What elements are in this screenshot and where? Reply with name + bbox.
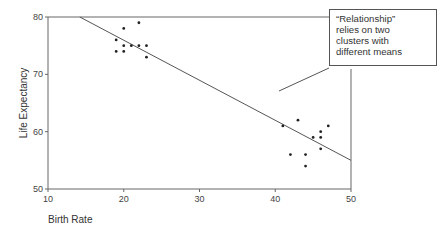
- callout-line-4: different means: [336, 46, 436, 57]
- annotation-callout: “Relationship” relies on two clusters wi…: [329, 9, 437, 66]
- data-point: [281, 125, 284, 128]
- y-tick-label: 50: [33, 184, 43, 194]
- data-point: [304, 153, 307, 156]
- data-point: [145, 44, 148, 47]
- axis-ticks: 102030405050607080: [33, 12, 356, 204]
- data-point: [304, 165, 307, 168]
- data-point: [138, 44, 141, 47]
- data-point: [327, 125, 330, 128]
- data-point: [312, 136, 315, 139]
- data-point: [319, 147, 322, 150]
- y-tick-label: 80: [33, 12, 43, 22]
- data-point: [130, 44, 133, 47]
- data-point: [138, 21, 141, 24]
- regression-line: [80, 17, 351, 160]
- callout-line-1: “Relationship”: [336, 13, 436, 24]
- data-point: [115, 50, 118, 53]
- data-point: [297, 119, 300, 122]
- callout-line-3: clusters with: [336, 35, 436, 46]
- x-tick-label: 10: [43, 194, 53, 204]
- y-tick-label: 70: [33, 69, 43, 79]
- callout-line-2: relies on two: [336, 24, 436, 35]
- data-point: [122, 50, 125, 53]
- data-points: [115, 21, 330, 167]
- callout-pointer: [279, 68, 329, 91]
- data-point: [122, 27, 125, 30]
- data-point: [319, 136, 322, 139]
- regression-line-path: [80, 17, 351, 160]
- y-tick-label: 60: [33, 127, 43, 137]
- x-tick-label: 40: [270, 194, 280, 204]
- data-point: [319, 130, 322, 133]
- x-tick-label: 30: [194, 194, 204, 204]
- data-point: [145, 56, 148, 59]
- x-tick-label: 20: [119, 194, 129, 204]
- data-point: [289, 153, 292, 156]
- x-axis-label: Birth Rate: [48, 214, 93, 225]
- data-point: [122, 44, 125, 47]
- plot-frame: [48, 17, 351, 189]
- data-point: [115, 39, 118, 42]
- x-tick-label: 50: [346, 194, 356, 204]
- y-axis-label: Life Expectancy: [18, 68, 29, 139]
